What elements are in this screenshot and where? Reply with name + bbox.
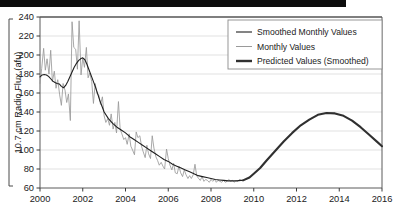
chart-area: 6080100120140160180200220240 20002002200… (0, 7, 400, 210)
y-axis-label: 10.7 cm Radio Flux (afu) (9, 19, 23, 186)
series-line-predicted-values-smoothed (243, 113, 382, 180)
y-tick-label: 60 (24, 183, 34, 193)
x-tick-label: 2000 (30, 194, 51, 204)
x-tick-label: 2012 (286, 194, 307, 204)
y-tick-label: 220 (18, 31, 34, 41)
y-axis-title: 10.7 cm Radio Flux (afu) (13, 52, 23, 154)
legend-label-1: Monthly Values (257, 42, 315, 52)
x-tick-label: 2006 (158, 194, 179, 204)
legend-label-0: Smoothed Monthly Values (257, 27, 357, 37)
x-tick-label: 2004 (115, 194, 136, 204)
x-tick-label: 2014 (329, 194, 350, 204)
x-tick-label: 2016 (372, 194, 393, 204)
x-tick-label: 2008 (201, 194, 222, 204)
top-black-band (0, 0, 346, 7)
chart-legend: Smoothed Monthly ValuesMonthly ValuesPre… (228, 20, 382, 69)
solar-flux-line-chart: 6080100120140160180200220240 20002002200… (0, 7, 400, 210)
y-tick-label: 240 (18, 12, 34, 22)
x-tick-label: 2002 (72, 194, 93, 204)
x-axis-ticks: 200020022004200620082010201220142016 (30, 188, 393, 204)
series-line-monthly-values (40, 21, 243, 183)
chart-page: 6080100120140160180200220240 20002002200… (0, 0, 400, 210)
legend-label-2: Predicted Values (Smoothed) (257, 56, 369, 66)
x-tick-label: 2010 (243, 194, 264, 204)
y-tick-label: 80 (24, 164, 34, 174)
